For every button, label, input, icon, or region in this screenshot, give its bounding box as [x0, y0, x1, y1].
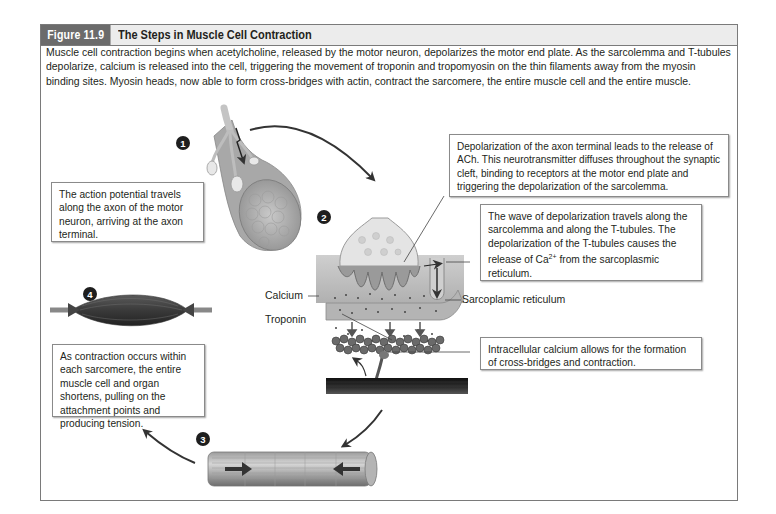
step-1-text: The action potential travels along the a…: [59, 189, 183, 240]
step-1-badge: 1: [176, 136, 190, 150]
step-1-callout: The action potential travels along the a…: [51, 182, 204, 242]
neuromuscular-junction-illustration: [316, 218, 468, 394]
step-4-badge: 4: [83, 287, 97, 301]
muscle-fiber-cylinder-illustration: [208, 452, 377, 486]
step-2-badge: 2: [317, 210, 331, 224]
motor-neuron-illustration: [207, 108, 311, 259]
t-tubules-callout: The wave of depolarization travels along…: [480, 204, 702, 281]
sarcoplasmic-reticulum-label: Sarcoplamic reticulum: [462, 293, 565, 305]
troponin-label: Troponin: [265, 313, 306, 325]
arrow-step3-to-step4: [146, 432, 195, 463]
whole-muscle-illustration: [50, 295, 212, 326]
calcium-charge: 2+: [549, 253, 557, 260]
cross-bridges-callout: Intracellular calcium allows for the for…: [480, 337, 702, 370]
step-2-text: Depolarization of the axon terminal lead…: [457, 141, 720, 192]
step-4-callout: As contraction occurs within each sarcom…: [52, 344, 205, 417]
calcium-label: Calcium: [265, 289, 303, 301]
step-2-callout: Depolarization of the axon terminal lead…: [449, 134, 729, 197]
step-3-badge: 3: [196, 432, 210, 446]
cross-bridges-text: Intracellular calcium allows for the for…: [488, 344, 686, 368]
arrow-step2-to-step3: [345, 410, 382, 445]
